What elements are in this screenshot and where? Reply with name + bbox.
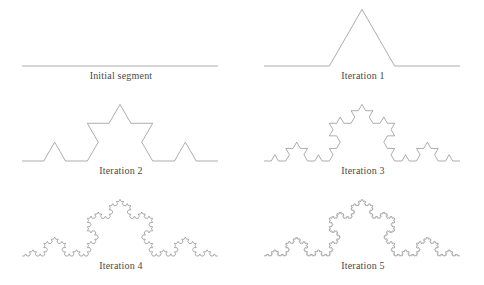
panel-iteration-3: Iteration 3 bbox=[242, 95, 484, 190]
koch-figure: Initial segment Iteration 1 Iteration 2 … bbox=[0, 0, 484, 285]
panel-label-1: Iteration 1 bbox=[242, 70, 484, 82]
koch-polyline-4 bbox=[22, 199, 218, 256]
koch-polyline-5 bbox=[264, 199, 460, 256]
panel-label-0: Initial segment bbox=[0, 70, 242, 82]
panel-iteration-1: Iteration 1 bbox=[242, 0, 484, 95]
koch-polyline-3 bbox=[264, 104, 460, 161]
panel-iteration-4: Iteration 4 bbox=[0, 190, 242, 285]
panel-label-4: Iteration 4 bbox=[0, 260, 242, 272]
koch-polyline-2 bbox=[22, 104, 218, 161]
panel-label-5: Iteration 5 bbox=[242, 260, 484, 272]
panel-iteration-2: Iteration 2 bbox=[0, 95, 242, 190]
koch-polyline-1 bbox=[264, 9, 460, 66]
panel-initial-segment: Initial segment bbox=[0, 0, 242, 95]
panel-iteration-5: Iteration 5 bbox=[242, 190, 484, 285]
panel-label-3: Iteration 3 bbox=[242, 165, 484, 177]
panel-label-2: Iteration 2 bbox=[0, 165, 242, 177]
